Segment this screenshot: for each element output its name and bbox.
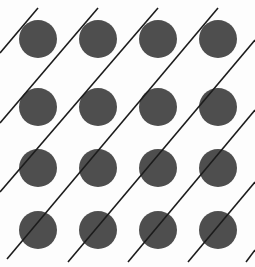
dot-r4-c1 [19,211,57,249]
dot-r3-c2 [79,149,117,187]
dot-r1-c1 [19,20,57,58]
dot-r2-c3 [139,88,177,126]
illusion-figure-svg [0,0,255,267]
dot-r3-c1 [19,149,57,187]
dot-r1-c2 [79,20,117,58]
figure-canvas [0,0,255,267]
dot-r1-c4 [199,20,237,58]
dot-r2-c4 [199,88,237,126]
dot-r4-c3 [139,211,177,249]
dot-r1-c3 [139,20,177,58]
